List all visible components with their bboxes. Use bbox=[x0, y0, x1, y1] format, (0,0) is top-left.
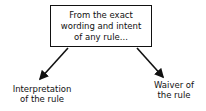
arrow-left-icon bbox=[40, 48, 68, 79]
branch-label-waiver: Waiver of the rule bbox=[146, 80, 202, 100]
arrow-right-icon bbox=[137, 48, 163, 77]
branch-label-interpretation: Interpretation of the rule bbox=[6, 84, 78, 104]
